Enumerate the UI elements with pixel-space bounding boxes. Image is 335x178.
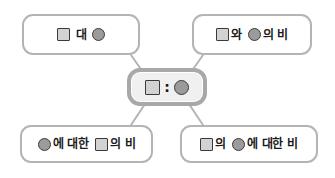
connector-bottom-right	[189, 104, 203, 125]
node-bottom-right[interactable]: 의 에 대한 비	[180, 125, 318, 163]
node-top-left-content: 대	[57, 28, 106, 41]
node-top-right[interactable]: 와 의 비	[192, 14, 312, 55]
circle-symbol	[174, 80, 189, 95]
node-center-ratio-notation[interactable]: :	[127, 68, 207, 106]
node-bottom-left-label-2: 의 비	[110, 138, 136, 150]
square-symbol	[216, 28, 229, 41]
node-bottom-left-content: 에 대한 의 비	[38, 138, 136, 151]
colon-symbol: :	[164, 80, 170, 94]
node-top-right-content: 와 의 비	[216, 28, 288, 41]
node-bottom-left-label-1: 에 대한	[53, 138, 89, 150]
node-top-left[interactable]: 대	[22, 14, 140, 55]
ratio-expression-diagram: 대 와 의 비 : 에 대한 의 비 의	[0, 0, 335, 178]
node-bottom-right-content: 의 에 대한 비	[200, 138, 298, 151]
node-bottom-right-label-1: 의	[215, 138, 226, 150]
node-bottom-left[interactable]: 에 대한 의 비	[20, 125, 153, 163]
square-symbol	[200, 138, 213, 151]
node-top-right-label-1: 와	[231, 29, 242, 41]
node-top-left-label-1: 대	[76, 29, 87, 41]
circle-symbol	[248, 28, 261, 41]
node-bottom-right-label-2: 에 대한 비	[247, 138, 298, 150]
circle-symbol	[92, 28, 105, 41]
circle-symbol	[232, 138, 245, 151]
node-top-right-label-2: 의 비	[263, 29, 289, 41]
connector-bottom-left	[131, 104, 145, 125]
node-center-content: :	[145, 80, 189, 95]
square-symbol	[95, 138, 108, 151]
circle-symbol	[38, 138, 51, 151]
square-symbol	[145, 80, 160, 95]
square-symbol	[57, 28, 70, 41]
